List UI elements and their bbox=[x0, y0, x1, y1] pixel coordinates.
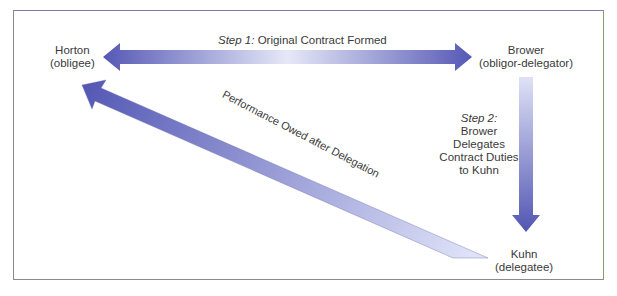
party-horton-role: (obligee) bbox=[50, 57, 95, 70]
step2-line-4: to Kuhn bbox=[432, 164, 526, 177]
step2-prefix: Step 2: bbox=[432, 112, 526, 125]
step2-line-1: Brower bbox=[432, 125, 526, 138]
step2-line-2: Delegates bbox=[432, 138, 526, 151]
party-horton: Horton (obligee) bbox=[50, 44, 95, 70]
party-kuhn-role: (delegatee) bbox=[495, 261, 553, 274]
step1-text: Original Contract Formed bbox=[254, 34, 386, 46]
party-kuhn: Kuhn (delegatee) bbox=[495, 248, 553, 274]
step2-label: Step 2: Brower Delegates Contract Duties… bbox=[432, 112, 526, 177]
step2-line-3: Contract Duties bbox=[432, 151, 526, 164]
step1-label: Step 1: Original Contract Formed bbox=[218, 34, 387, 47]
party-brower-role: (obligor-delegator) bbox=[479, 57, 573, 70]
party-brower: Brower (obligor-delegator) bbox=[479, 44, 573, 70]
party-brower-name: Brower bbox=[479, 44, 573, 57]
party-horton-name: Horton bbox=[50, 44, 95, 57]
step1-prefix: Step 1: bbox=[218, 34, 254, 46]
double-arrow-contract bbox=[103, 43, 472, 71]
party-kuhn-name: Kuhn bbox=[495, 248, 553, 261]
diagonal-arrow-performance bbox=[82, 80, 488, 258]
